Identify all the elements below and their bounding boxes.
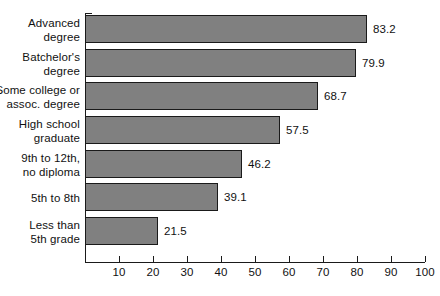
x-axis-tick-label: 70 (317, 266, 330, 279)
bar-some-college (85, 82, 318, 110)
x-axis-tick (187, 256, 188, 262)
x-axis-tick-label: 30 (181, 266, 194, 279)
bar-value-label: 46.2 (248, 158, 271, 171)
y-axis-cap (85, 13, 92, 14)
x-axis-tick-label: 60 (283, 266, 296, 279)
x-axis-tick-label: 20 (147, 266, 160, 279)
x-axis (85, 262, 425, 263)
category-label: High school graduate (0, 118, 80, 145)
category-label: Some college or assoc. degree (0, 84, 80, 111)
x-axis-tick (425, 256, 426, 262)
x-axis-tick (119, 256, 120, 262)
bar-value-label: 79.9 (362, 57, 385, 70)
x-axis-tick (221, 256, 222, 262)
bar-value-label: 57.5 (286, 124, 309, 137)
x-axis-tick (357, 256, 358, 262)
bar-chart: Advanced degree Batchelor's degree Some … (0, 0, 440, 296)
x-axis-tick-label: 90 (385, 266, 398, 279)
bar-high-school-graduate (85, 116, 280, 144)
bar-value-label: 68.7 (324, 90, 347, 103)
x-axis-tick (255, 256, 256, 262)
x-axis-tick-label: 50 (249, 266, 262, 279)
category-label: 9th to 12th, no diploma (0, 152, 80, 179)
x-axis-tick (85, 256, 86, 262)
bar-value-label: 39.1 (224, 191, 247, 204)
x-axis-tick (391, 256, 392, 262)
x-axis-tick-label: 100 (415, 266, 435, 279)
y-axis (85, 13, 86, 263)
category-label: 5th to 8th (0, 192, 80, 206)
bar-value-label: 83.2 (373, 23, 396, 36)
plot-area: 83.2 79.9 68.7 57.5 46.2 39.1 21.5 (85, 0, 440, 296)
bar-value-label: 21.5 (164, 225, 187, 238)
x-axis-tick (323, 256, 324, 262)
x-axis-tick-label: 10 (113, 266, 126, 279)
x-axis-tick (289, 256, 290, 262)
bar-9th-to-12th (85, 150, 242, 178)
x-axis-tick-label: 40 (215, 266, 228, 279)
x-axis-tick (153, 256, 154, 262)
category-label: Less than 5th grade (0, 219, 80, 246)
category-label: Batchelor's degree (0, 51, 80, 78)
bar-5th-to-8th (85, 183, 218, 211)
x-axis-tick-label: 80 (351, 266, 364, 279)
bar-less-than-5th-grade (85, 217, 158, 245)
bar-batchelors-degree (85, 49, 356, 77)
category-label: Advanced degree (0, 17, 80, 44)
bar-advanced-degree (85, 15, 367, 43)
